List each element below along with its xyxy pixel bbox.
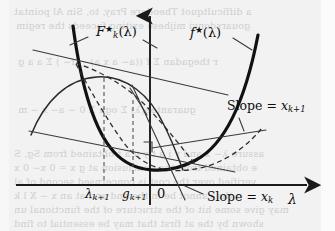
slope-xk1-var: x (281, 98, 288, 113)
label-Fk-star: F★k(λ) (96, 24, 137, 40)
origin-label: 0 (157, 186, 165, 201)
x-axis-label: λ (288, 191, 297, 207)
tick-label-lambda-k-plus-1: λk+1 (85, 187, 110, 202)
label-slope-x-k: Slope = xk (207, 189, 273, 205)
tick-g-symbol: g (122, 187, 130, 201)
curve-Fk-star (31, 77, 183, 170)
figure-canvas: a difficultquot Theodore Pray, to, Sin A… (0, 0, 335, 231)
tick-lambda-sub: k+1 (93, 192, 110, 202)
label-slope-x-k-plus-1: Slope = xk+1 (227, 98, 306, 114)
slope-xk-prefix: Slope = (207, 189, 261, 204)
label-f-star-arg: (λ) (203, 25, 221, 40)
leader-f-star (233, 38, 252, 50)
label-Fk-star-sup: ★ (105, 24, 113, 34)
slope-xk1-prefix: Slope = (227, 98, 281, 113)
label-f-star: f★(λ) (190, 25, 221, 40)
tick-g-sub: k+1 (130, 192, 147, 202)
label-Fk-star-arg: (λ) (118, 24, 136, 39)
label-f-star-sup: ★ (195, 25, 203, 35)
tangent-line-x-k-plus-1 (152, 130, 266, 148)
leader-Fk-star-left (70, 37, 88, 45)
slope-xk1-sub: k+1 (288, 104, 306, 114)
slope-xk-sub: k (268, 195, 273, 205)
slope-xk-var: x (261, 189, 268, 204)
leader-slope-x-k (185, 186, 203, 194)
leader-slope-x-k-plus-1 (239, 118, 244, 131)
diagram-svg (0, 0, 335, 231)
tick-lambda-symbol: λ (85, 187, 93, 201)
tick-label-g-k-plus-1: gk+1 (122, 187, 147, 202)
label-Fk-star-main: F (96, 24, 105, 39)
